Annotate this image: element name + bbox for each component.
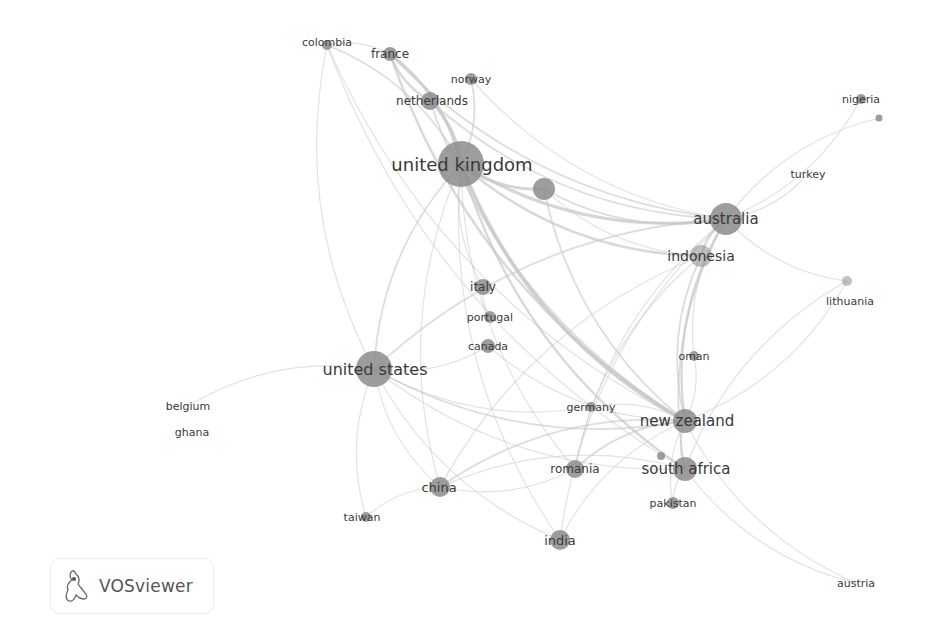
label-nigeria[interactable]: nigeria (842, 93, 880, 106)
label-china[interactable]: china (421, 480, 456, 495)
label-france[interactable]: france (371, 47, 409, 61)
label-romania[interactable]: romania (550, 462, 599, 476)
label-taiwan[interactable]: taiwan (344, 511, 381, 524)
label-lithuania[interactable]: lithuania (826, 295, 874, 308)
label-belgium[interactable]: belgium (166, 400, 211, 413)
label-new-zealand[interactable]: new zealand (640, 412, 734, 430)
edge-south-africa-austria (685, 469, 856, 583)
label-austria[interactable]: austria (837, 577, 875, 590)
edge-france-new-zealand (390, 54, 685, 421)
edge-france-australia (390, 54, 726, 219)
vosviewer-brand: VOSviewer (50, 558, 214, 614)
label-italy[interactable]: italy (470, 280, 496, 294)
node-lithuania[interactable] (842, 276, 852, 286)
label-india[interactable]: india (544, 533, 576, 548)
label-norway[interactable]: norway (451, 73, 492, 86)
edge-new-zealand-austria (685, 421, 856, 583)
edge-colombia-united-states (317, 45, 374, 369)
edge-lithuania-south-africa (685, 281, 847, 469)
label-indonesia[interactable]: indonesia (667, 248, 734, 264)
label-south-africa[interactable]: south africa (642, 460, 731, 478)
edge-australia-lithuania (726, 219, 847, 281)
label-turkey[interactable]: turkey (790, 168, 826, 181)
edge-layer (188, 43, 879, 583)
edge-new-zealand-india (560, 421, 685, 540)
vosviewer-logo-icon (63, 568, 93, 604)
edge-australia-nigeria (726, 99, 861, 219)
label-layer: colombiafrancenorwaynetherlandsunited ki… (166, 36, 880, 590)
label-united-states[interactable]: united states (323, 360, 428, 379)
edge-australia-oman (692, 219, 726, 356)
label-portugal[interactable]: portugal (467, 311, 513, 324)
edge-united-kingdom-united-states (374, 164, 461, 369)
label-australia[interactable]: australia (693, 210, 758, 228)
label-colombia[interactable]: colombia (302, 36, 352, 49)
network-map[interactable]: colombiafrancenorwaynetherlandsunited ki… (0, 0, 926, 644)
label-germany[interactable]: germany (566, 401, 616, 414)
node-nigeria-2[interactable] (876, 115, 883, 122)
label-oman[interactable]: oman (678, 350, 709, 363)
label-ghana[interactable]: ghana (175, 426, 209, 439)
vosviewer-label: VOSviewer (99, 576, 193, 596)
node-unlabeled-2[interactable] (657, 452, 665, 460)
edge-united-states-india (374, 369, 560, 540)
edge-united-states-taiwan (356, 369, 374, 517)
label-canada[interactable]: canada (468, 340, 508, 353)
label-netherlands[interactable]: netherlands (396, 94, 468, 108)
label-pakistan[interactable]: pakistan (650, 497, 697, 510)
node-layer (322, 40, 883, 550)
label-united-kingdom[interactable]: united kingdom (391, 154, 532, 175)
edge-australia-united-states (374, 219, 726, 369)
node-unlabeled-1[interactable] (533, 178, 555, 200)
